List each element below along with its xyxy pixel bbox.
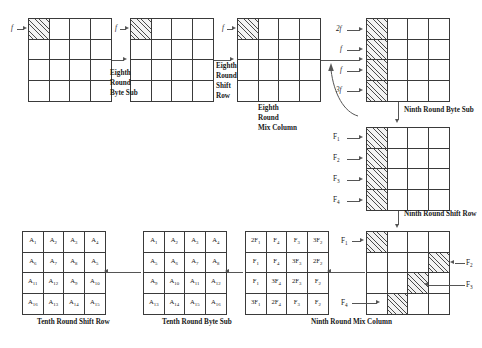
grid-cell — [50, 81, 71, 102]
F1-g6-sub: 1 — [345, 240, 348, 246]
label-eighth-round-byte-sub-2: Round — [110, 79, 131, 88]
grid-cell-value: F1 — [246, 273, 267, 294]
grid-cell — [408, 169, 429, 190]
grid-cell — [172, 19, 193, 40]
F4-sub: 4 — [337, 199, 340, 205]
grid-cell — [91, 19, 112, 40]
grid-cell — [388, 253, 409, 274]
grid-cell-value: A14 — [64, 294, 85, 315]
grid-cell — [193, 40, 214, 61]
grid-cell-value: A9 — [64, 273, 85, 294]
grid-cell-value: A16 — [23, 294, 44, 315]
flow-arrow-g8-g9 — [104, 269, 108, 273]
grid-cell — [388, 169, 409, 190]
grid-cell — [131, 19, 152, 40]
grid-cell — [408, 40, 429, 61]
grid-cell — [408, 149, 429, 170]
grid-cell-value: 3F4 — [267, 273, 288, 294]
grid-cell-value: A10 — [85, 273, 106, 294]
grid-cell — [429, 60, 450, 81]
grid-cell-value: 3F3 — [287, 253, 308, 274]
grid-cell — [367, 40, 388, 61]
grid-cell — [367, 232, 388, 253]
arrow-f-row3 — [359, 68, 363, 72]
grid-cell — [193, 19, 214, 40]
grid-cell — [172, 81, 193, 102]
grid-cell-value: A7 — [44, 253, 65, 274]
grid-cell — [367, 190, 388, 211]
grid-cell — [367, 169, 388, 190]
arrow-F4-g6 — [376, 300, 380, 304]
grid-cell — [408, 294, 429, 315]
grid-cell — [91, 40, 112, 61]
label-tenth-round-shift-row: Tenth Round Shift Row — [37, 318, 110, 327]
grid-cell-value: A8 — [206, 253, 227, 274]
arrow-f-grid1 — [23, 26, 27, 30]
grid-cell-value: 2F2 — [308, 253, 329, 274]
grid-cell — [388, 40, 409, 61]
grid-cell — [429, 190, 450, 211]
F3-g6-sub: 3 — [470, 284, 473, 290]
grid-4-eighth-round-mix-column-out — [366, 18, 450, 102]
fault-label-F3-g5: F3 — [333, 175, 340, 187]
F3-sub: 3 — [337, 178, 340, 184]
grid-cell — [408, 60, 429, 81]
grid-1-eighth-round-input — [28, 18, 112, 102]
grid-cell-value: 3F2 — [308, 232, 329, 253]
grid-cell — [388, 232, 409, 253]
flow-line-g7-g8 — [227, 272, 243, 273]
grid-cell — [408, 232, 429, 253]
fault-label-f-row2: f — [340, 45, 342, 54]
grid-cell — [367, 19, 388, 40]
flow-arrow-g7-g8 — [225, 269, 229, 273]
arrow-f-grid3 — [232, 26, 236, 30]
grid-cell-value: A15 — [185, 294, 206, 315]
grid-cell — [172, 40, 193, 61]
fault-label-f-grid2: f — [115, 24, 117, 33]
grid-cell — [429, 294, 450, 315]
fault-label-F1-g5: F1 — [333, 133, 340, 145]
label-eighth-round-mix-column-3: Mix Column — [258, 124, 297, 133]
grid-cell — [259, 81, 280, 102]
grid-cell — [429, 273, 450, 294]
grid-cell — [388, 128, 409, 149]
grid-cell — [238, 81, 259, 102]
grid-cell — [388, 19, 409, 40]
grid-cell — [70, 81, 91, 102]
grid-cell — [408, 253, 429, 274]
grid-cell — [388, 273, 409, 294]
grid-cell — [408, 81, 429, 102]
F2-sub: 2 — [337, 157, 340, 163]
arrow-f-row2 — [359, 47, 363, 51]
grid-cell-value: A6 — [165, 253, 186, 274]
fault-label-F2-g5: F2 — [333, 154, 340, 166]
grid-9-tenth-round-shift-row-out: A1A2A3A4A6A7A8A5A11A12A9A10A16A13A14A15 — [22, 231, 106, 315]
grid-cell-value: F4 — [267, 232, 288, 253]
grid-cell-value: A7 — [185, 253, 206, 274]
grid-cell — [259, 40, 280, 61]
grid-cell-value: A4 — [206, 232, 227, 253]
flow-line-g2-g3 — [214, 60, 231, 61]
grid-cell-value: A2 — [44, 232, 65, 253]
grid-cell — [50, 40, 71, 61]
grid-cell-value: A5 — [144, 253, 165, 274]
label-ninth-round-shift-row: Ninth Round Shift Row — [404, 210, 477, 219]
flow-arrow-g6-g7 — [327, 269, 331, 273]
grid-cell — [408, 19, 429, 40]
label-eighth-round-shift-row-4: Row — [216, 92, 230, 101]
grid-cell-value: A1 — [144, 232, 165, 253]
grid-cell — [70, 19, 91, 40]
fault-label-f-grid1: f — [11, 24, 13, 33]
grid-cell — [238, 60, 259, 81]
label-eighth-round-shift-row-2: Round — [216, 72, 237, 81]
label-eighth-round-shift-row-1: Eighth — [216, 62, 237, 71]
grid-cell — [388, 190, 409, 211]
fault-label-F3-g6: F3 — [466, 281, 473, 293]
curve-eighth-round-mix-column — [300, 58, 360, 120]
grid-cell — [388, 60, 409, 81]
grid-cell — [388, 81, 409, 102]
grid-cell — [29, 40, 50, 61]
grid-cell — [238, 40, 259, 61]
flow-line-g6-g7 — [329, 272, 365, 273]
arrow-3f — [359, 88, 363, 92]
